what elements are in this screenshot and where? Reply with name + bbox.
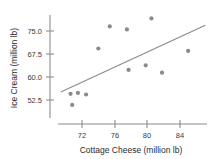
data-points-group <box>68 16 190 107</box>
x-tick-label-1: 76 <box>111 131 119 140</box>
x-tick-label-2: 80 <box>143 131 151 140</box>
data-point <box>84 92 88 96</box>
data-point <box>186 49 190 53</box>
data-point <box>149 16 153 20</box>
data-point <box>68 92 72 96</box>
data-point <box>108 24 112 28</box>
y-tick-label-0: 75.0 <box>27 27 42 36</box>
x-axis-title: Cottage Cheese (million lb) <box>80 145 183 155</box>
x-tick-labels: 72 76 80 84 <box>78 131 184 140</box>
data-point <box>70 103 74 107</box>
x-tick-label-3: 84 <box>176 131 184 140</box>
data-point <box>96 46 100 50</box>
y-axis-title: Ice Cream (million lb) <box>9 28 19 108</box>
data-point <box>160 71 164 75</box>
y-tick-labels: 75.0 67.5 60.0 52.5 <box>27 27 42 105</box>
trend-line <box>61 25 206 92</box>
data-point <box>76 91 80 95</box>
y-tick-label-2: 60.0 <box>27 73 42 82</box>
data-point <box>144 63 148 67</box>
y-tick-label-3: 52.5 <box>27 96 42 105</box>
data-point <box>126 68 130 72</box>
x-tick-label-0: 72 <box>78 131 86 140</box>
data-point <box>125 27 129 31</box>
scatter-chart: 75.0 67.5 60.0 52.5 72 76 80 84 Cottage … <box>0 0 214 159</box>
y-tick-label-1: 67.5 <box>27 50 42 59</box>
